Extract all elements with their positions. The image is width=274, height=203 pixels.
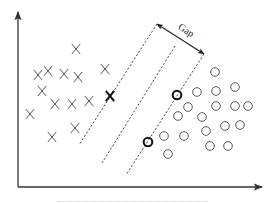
o-marker	[231, 83, 240, 92]
o-marker	[180, 132, 189, 141]
support-vector-o-marker	[144, 138, 153, 147]
o-marker	[221, 122, 230, 131]
class-o-points	[144, 68, 253, 159]
x-marker	[44, 66, 52, 76]
x-marker	[74, 72, 82, 82]
figure-caption	[58, 196, 218, 203]
caption-fragment	[58, 201, 208, 203]
o-marker	[231, 102, 240, 111]
o-marker	[224, 142, 233, 151]
left-margin-line	[79, 24, 157, 145]
x-marker	[71, 123, 79, 133]
axes	[18, 12, 262, 187]
separator-line	[102, 46, 175, 163]
x-marker	[72, 44, 80, 54]
o-marker	[184, 103, 193, 112]
o-marker	[212, 87, 221, 96]
o-marker	[212, 102, 221, 111]
o-marker	[236, 121, 245, 130]
x-marker	[101, 64, 109, 74]
support-vector-x-marker	[106, 91, 114, 101]
o-marker	[164, 150, 173, 159]
x-marker	[85, 96, 93, 106]
x-marker	[48, 132, 56, 142]
x-marker	[38, 86, 46, 96]
diagram-canvas: Gap	[0, 0, 274, 203]
x-marker	[34, 70, 42, 80]
svm-diagram: Gap	[0, 0, 274, 203]
decision-lines	[79, 24, 204, 175]
gap-annotation: Gap	[157, 21, 204, 54]
o-marker	[211, 68, 220, 77]
x-marker	[68, 99, 76, 109]
o-marker	[198, 113, 207, 122]
o-marker	[160, 132, 169, 141]
x-marker	[26, 109, 34, 119]
x-marker	[51, 99, 59, 109]
o-marker	[244, 102, 253, 111]
support-vector-o-marker	[173, 91, 182, 100]
x-marker	[60, 69, 68, 79]
o-marker	[206, 142, 215, 151]
o-marker	[193, 88, 202, 97]
o-marker	[174, 112, 183, 121]
gap-label: Gap	[176, 21, 196, 39]
o-marker	[202, 127, 211, 136]
class-x-points	[26, 44, 114, 142]
